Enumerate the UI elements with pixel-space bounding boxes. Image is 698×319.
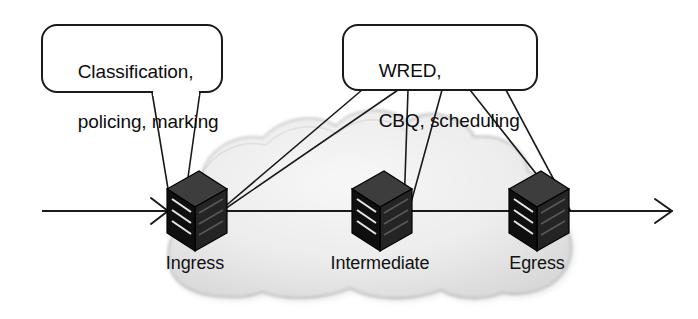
router-ingress[interactable] bbox=[167, 171, 227, 251]
router-label-intermediate: Intermediate bbox=[331, 253, 430, 274]
router-label-egress: Egress bbox=[509, 253, 564, 274]
router-label-ingress: Ingress bbox=[166, 253, 224, 274]
router-intermediate[interactable] bbox=[352, 171, 412, 251]
router-egress[interactable] bbox=[509, 171, 569, 251]
qos-network-diagram: Classification, policing, marking WRED, … bbox=[0, 0, 698, 319]
